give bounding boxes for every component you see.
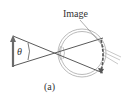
ray-top (13, 36, 103, 73)
arrowhead-icon (10, 35, 16, 42)
image-label-pointer (80, 20, 104, 47)
angle-label: θ (17, 46, 22, 57)
angle-arc (28, 43, 30, 60)
eye (58, 29, 121, 77)
ray-bottom (13, 38, 103, 66)
object-arrow (10, 35, 16, 67)
eye-angle-diagram: θ Image (a) (0, 0, 129, 99)
light-rays (13, 36, 103, 73)
eye-inner-outline (61, 32, 104, 75)
eye-outer-outline (58, 29, 106, 77)
figure-caption: (a) (44, 81, 55, 93)
image-label: Image (63, 8, 89, 19)
